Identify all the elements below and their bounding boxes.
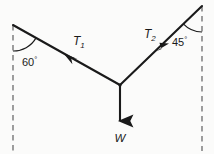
cable-junction-point xyxy=(118,83,121,86)
tension-t1-subscript: 1 xyxy=(80,41,84,50)
left-angle-degree-symbol: ° xyxy=(34,55,37,64)
left-angle-value: 60 xyxy=(22,56,34,68)
free-body-diagram-figure: 60° 45° T1 T2 W xyxy=(0,0,214,154)
right-angle-degree-symbol: ° xyxy=(184,35,187,44)
diagram-canvas: 60° 45° T1 T2 W xyxy=(0,0,214,154)
weight-label: W xyxy=(115,132,127,144)
tension-t2-subscript: 2 xyxy=(150,34,156,43)
right-angle-value: 45 xyxy=(172,36,184,48)
